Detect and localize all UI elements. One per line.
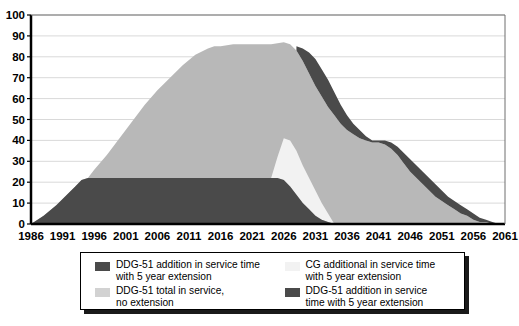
- x-axis-tick-label: 2041: [366, 230, 392, 242]
- legend-label: CG additional in service time with 5 yea…: [306, 259, 436, 282]
- y-axis-tick-label: 30: [12, 155, 25, 167]
- y-axis-tick-label: 60: [12, 93, 25, 105]
- y-axis-tick-label: 100: [6, 9, 25, 21]
- y-axis-tick-label: 50: [12, 114, 25, 126]
- legend-swatch-dark-gray: [285, 288, 300, 297]
- legend-item-ddg51-total-no-extension[interactable]: DDG-51 total in service, no extension: [95, 285, 275, 308]
- legend-swatch-dark-gray: [95, 262, 110, 271]
- y-axis-tick-label: 80: [12, 51, 25, 63]
- x-axis-tick-label: 2016: [208, 230, 234, 242]
- chart-legend: DDG-51 addition in service time with 5 y…: [80, 252, 465, 310]
- x-axis-tick-labels: 1986199119962001200620112016202120262031…: [18, 230, 518, 242]
- plot-area: 0102030405060708090100 19861991199620012…: [0, 0, 519, 250]
- legend-swatch-light-gray: [285, 262, 300, 271]
- legend-label: DDG-51 addition in service time with 5 y…: [116, 259, 260, 282]
- x-axis-tick-label: 2036: [334, 230, 360, 242]
- y-axis-tick-label: 20: [12, 176, 25, 188]
- legend-item-ddg51-addition-left[interactable]: DDG-51 addition in service time with 5 y…: [95, 259, 275, 282]
- y-axis-tick-label: 0: [19, 218, 25, 230]
- x-axis-tick-label: 2006: [145, 230, 171, 242]
- area-series-group: [31, 42, 505, 224]
- legend-item-cg-additional[interactable]: CG additional in service time with 5 yea…: [285, 259, 465, 282]
- x-axis-tick-label: 2056: [461, 230, 487, 242]
- x-axis-tick-label: 2011: [177, 230, 203, 242]
- x-axis-tick-label: 2051: [429, 230, 455, 242]
- legend-swatch-medium-gray: [95, 288, 110, 297]
- x-axis-tick-label: 1986: [18, 230, 44, 242]
- y-axis-tick-label: 70: [12, 72, 25, 84]
- legend-label: DDG-51 total in service, no extension: [116, 285, 224, 308]
- y-axis-tick-label: 40: [12, 134, 25, 146]
- legend-label: DDG-51 addition in service time with 5 y…: [306, 285, 428, 308]
- x-axis-tick-label: 2046: [397, 230, 423, 242]
- chart-container: 0102030405060708090100 19861991199620012…: [0, 0, 519, 326]
- x-axis-tick-label: 1996: [81, 230, 107, 242]
- legend-item-ddg51-addition-right[interactable]: DDG-51 addition in service time with 5 y…: [285, 285, 465, 308]
- y-axis-tick-label: 10: [12, 197, 25, 209]
- y-axis-tick-label: 90: [12, 30, 25, 42]
- x-axis-tick-label: 2061: [492, 230, 518, 242]
- x-axis-tick-label: 2031: [303, 230, 329, 242]
- x-axis-tick-label: 2026: [271, 230, 297, 242]
- legend-column-right: CG additional in service time with 5 yea…: [275, 259, 465, 309]
- area-chart-svg: 0102030405060708090100 19861991199620012…: [0, 0, 519, 250]
- x-axis-tick-label: 1991: [50, 230, 76, 242]
- legend-column-left: DDG-51 addition in service time with 5 y…: [81, 259, 275, 309]
- y-axis-tick-labels: 0102030405060708090100: [6, 9, 25, 230]
- x-axis-tick-label: 2021: [239, 230, 265, 242]
- x-axis-tick-label: 2001: [113, 230, 139, 242]
